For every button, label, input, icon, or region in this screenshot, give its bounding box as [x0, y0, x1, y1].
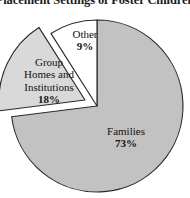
pie-chart-figure: Placement Settings of Foster Children Ot… [0, 0, 190, 198]
pie-label-families: Families 73% [92, 125, 160, 149]
pie-label-other: Other 9% [58, 28, 112, 52]
pie-label-families-name: Families [92, 125, 160, 137]
pie-label-group-homes-name-line2: Homes and [6, 68, 92, 80]
pie-chart-plot-area: Other 9% Group Homes and Institutions 18… [0, 6, 190, 198]
pie-label-other-value: 9% [58, 40, 112, 52]
pie-label-group-homes: Group Homes and Institutions 18% [6, 56, 92, 105]
pie-label-families-value: 73% [92, 137, 160, 149]
pie-label-group-homes-name-line1: Group [6, 56, 92, 68]
pie-label-group-homes-value: 18% [6, 93, 92, 105]
pie-label-other-name: Other [58, 28, 112, 40]
pie-label-group-homes-name-line3: Institutions [6, 81, 92, 93]
